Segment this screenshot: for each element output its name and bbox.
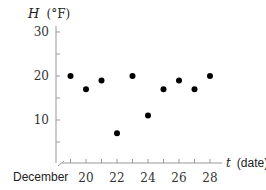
data-point	[176, 77, 182, 83]
y-tick-label: 20	[34, 69, 49, 83]
data-point	[130, 73, 136, 79]
data-point	[83, 86, 89, 92]
data-point	[68, 73, 74, 79]
data-points	[68, 73, 214, 136]
data-point	[207, 73, 213, 79]
x-axis-label: t (date)	[226, 156, 266, 170]
axes: 1020302022242628	[34, 25, 222, 185]
x-prefix-label-december: December	[13, 170, 68, 184]
data-point	[192, 86, 198, 92]
x-tick-label: 28	[202, 171, 217, 185]
x-tick-label: 20	[78, 171, 93, 185]
y-axis-label: H (°F)	[27, 6, 70, 21]
x-tick-label: 22	[109, 171, 124, 185]
y-tick-label: 10	[34, 113, 49, 127]
data-point	[114, 130, 120, 136]
scatter-chart: 1020302022242628 H (°F) t (date) Decembe…	[0, 0, 266, 190]
data-point	[99, 77, 105, 83]
x-tick-label: 24	[140, 171, 156, 185]
axis-labels: H (°F) t (date) December	[13, 6, 266, 184]
data-point	[145, 113, 151, 119]
y-tick-label: 30	[34, 25, 49, 39]
x-tick-label: 26	[171, 171, 186, 185]
data-point	[161, 86, 167, 92]
